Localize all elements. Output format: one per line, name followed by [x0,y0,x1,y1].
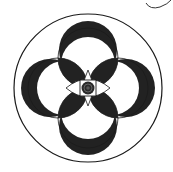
mandala-drawing [0,0,173,172]
stray-pen-stroke [146,0,171,8]
pupil [86,86,90,90]
